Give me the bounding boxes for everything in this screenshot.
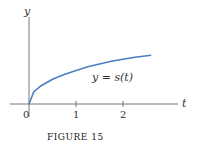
- x-tick-label: 2: [120, 109, 126, 120]
- figure-svg: 012 y t y = s(t) FIGURE 15: [0, 0, 204, 152]
- x-axis-label: t: [182, 97, 187, 110]
- caption-word: FIGURE: [47, 132, 91, 142]
- y-axis-label: y: [23, 5, 31, 18]
- caption-number: 15: [91, 132, 103, 142]
- figure-caption: FIGURE 15: [47, 132, 104, 142]
- x-tick-label: 1: [73, 109, 79, 120]
- x-tick-label: 0: [23, 109, 29, 120]
- curve-label: y = s(t): [91, 71, 133, 84]
